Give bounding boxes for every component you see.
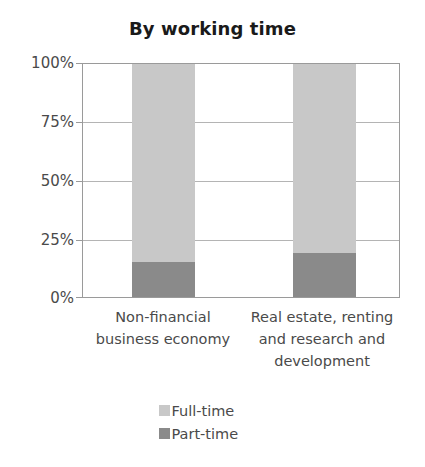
legend: Full-time Part-time — [0, 399, 425, 445]
legend-swatch-icon-full-time — [159, 405, 170, 416]
plot-area — [82, 63, 400, 298]
y-axis-labels: 100% 75% 50% 25% 0% — [0, 0, 74, 467]
legend-item-full-time[interactable]: Full-time — [0, 399, 425, 422]
x-axis-label-line: Real estate, renting — [242, 306, 402, 328]
legend-swatch-icon-part-time — [159, 428, 170, 439]
bar-real-estate-renting-research-development[interactable] — [293, 64, 356, 297]
bar-segment-part-time[interactable] — [132, 262, 195, 297]
legend-label-full-time: Full-time — [172, 403, 235, 419]
bar-segment-full-time[interactable] — [293, 64, 356, 253]
x-axis-labels: Non-financial business economy Real esta… — [82, 306, 400, 396]
y-tick-label-0: 0% — [0, 289, 74, 307]
legend-label-part-time: Part-time — [172, 426, 239, 442]
bar-segment-part-time[interactable] — [293, 253, 356, 297]
chart-container: By working time 100% 75% 50% 25% 0% — [0, 0, 425, 467]
x-axis-label-line: and research and — [242, 328, 402, 350]
y-tick-label-50: 50% — [0, 172, 74, 190]
legend-item-part-time[interactable]: Part-time — [0, 422, 425, 445]
y-tick-label-100: 100% — [0, 54, 74, 72]
x-axis-label-line: Non-financial — [82, 306, 244, 328]
y-tick-label-75: 75% — [0, 113, 74, 131]
y-tick-label-25: 25% — [0, 231, 74, 249]
bar-segment-full-time[interactable] — [132, 64, 195, 262]
x-axis-label-line: development — [242, 350, 402, 372]
x-axis-label-real-estate-renting-research-development: Real estate, renting and research and de… — [242, 306, 402, 372]
x-axis-label-non-financial-business-economy: Non-financial business economy — [82, 306, 244, 350]
bar-non-financial-business-economy[interactable] — [132, 64, 195, 297]
x-axis-label-line: business economy — [82, 328, 244, 350]
